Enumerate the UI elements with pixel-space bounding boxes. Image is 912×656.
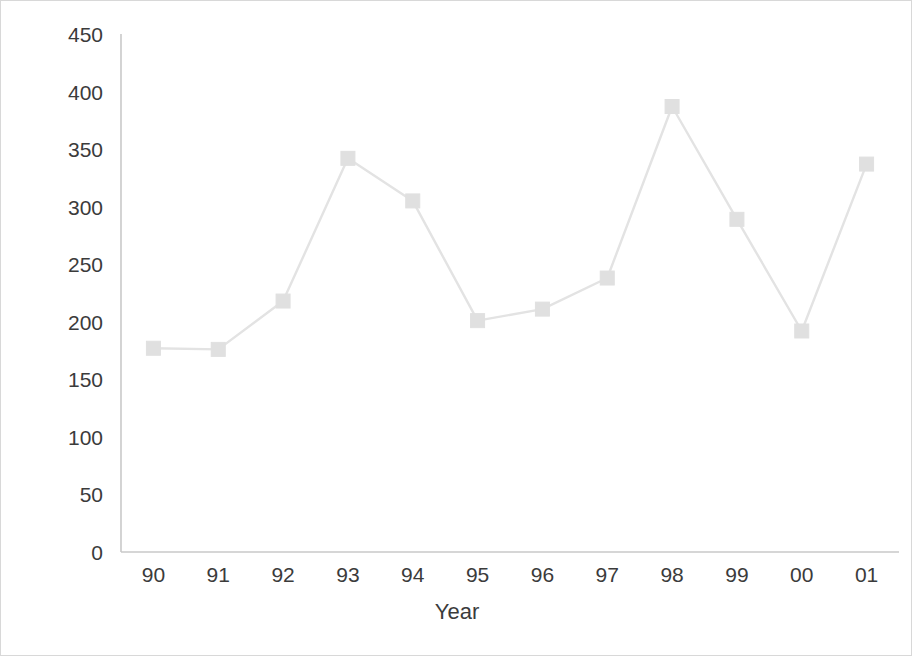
y-tick-label: 300 <box>41 196 103 217</box>
data-point-marker <box>860 157 874 171</box>
data-point-marker <box>535 302 549 316</box>
y-tick-label: 0 <box>41 542 103 563</box>
x-axis-title: Year <box>1 599 912 625</box>
y-tick-label: 200 <box>41 311 103 332</box>
x-tick-label: 96 <box>531 564 554 585</box>
data-point-marker <box>471 314 485 328</box>
x-tick-label: 93 <box>336 564 359 585</box>
x-tick-label: 91 <box>207 564 230 585</box>
data-series-group <box>146 100 873 357</box>
y-tick-label: 450 <box>41 24 103 45</box>
x-tick-label: 01 <box>855 564 878 585</box>
chart-plot-area: 050100150200250300350400450 909192939495… <box>1 1 912 656</box>
x-tick-label: 94 <box>401 564 424 585</box>
x-tick-label: 90 <box>142 564 165 585</box>
x-tick-label: 92 <box>271 564 294 585</box>
y-tick-label: 400 <box>41 81 103 102</box>
data-point-marker <box>795 324 809 338</box>
x-tick-label: 99 <box>725 564 748 585</box>
x-tick-label: 95 <box>466 564 489 585</box>
data-point-marker <box>341 151 355 165</box>
series-line <box>153 107 866 350</box>
data-point-marker <box>146 341 160 355</box>
chart-figure: 050100150200250300350400450 909192939495… <box>0 0 912 656</box>
data-point-marker <box>406 194 420 208</box>
data-point-marker <box>276 294 290 308</box>
axes-group <box>121 34 899 552</box>
x-tick-label: 00 <box>790 564 813 585</box>
x-tick-label: 98 <box>660 564 683 585</box>
y-tick-label: 250 <box>41 254 103 275</box>
chart-svg <box>1 1 912 656</box>
data-point-marker <box>600 271 614 285</box>
y-tick-label: 350 <box>41 139 103 160</box>
data-point-marker <box>211 342 225 356</box>
y-tick-label: 50 <box>41 484 103 505</box>
data-point-marker <box>665 100 679 114</box>
y-tick-label: 150 <box>41 369 103 390</box>
x-tick-label: 97 <box>596 564 619 585</box>
data-point-marker <box>730 212 744 226</box>
y-tick-label: 100 <box>41 426 103 447</box>
